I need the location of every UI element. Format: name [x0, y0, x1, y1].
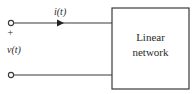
bottom-terminal	[8, 72, 13, 77]
top-terminal	[8, 20, 13, 25]
current-arrow-icon	[57, 20, 64, 27]
current-label: i(t)	[54, 6, 67, 18]
voltage-label: v(t)	[7, 44, 22, 56]
plus-sign: +	[8, 27, 14, 38]
box-label-line2: network	[132, 46, 169, 58]
circuit-diagram: i(t) + v(t) Linear network	[0, 0, 194, 94]
box-label-line1: Linear	[136, 31, 165, 43]
